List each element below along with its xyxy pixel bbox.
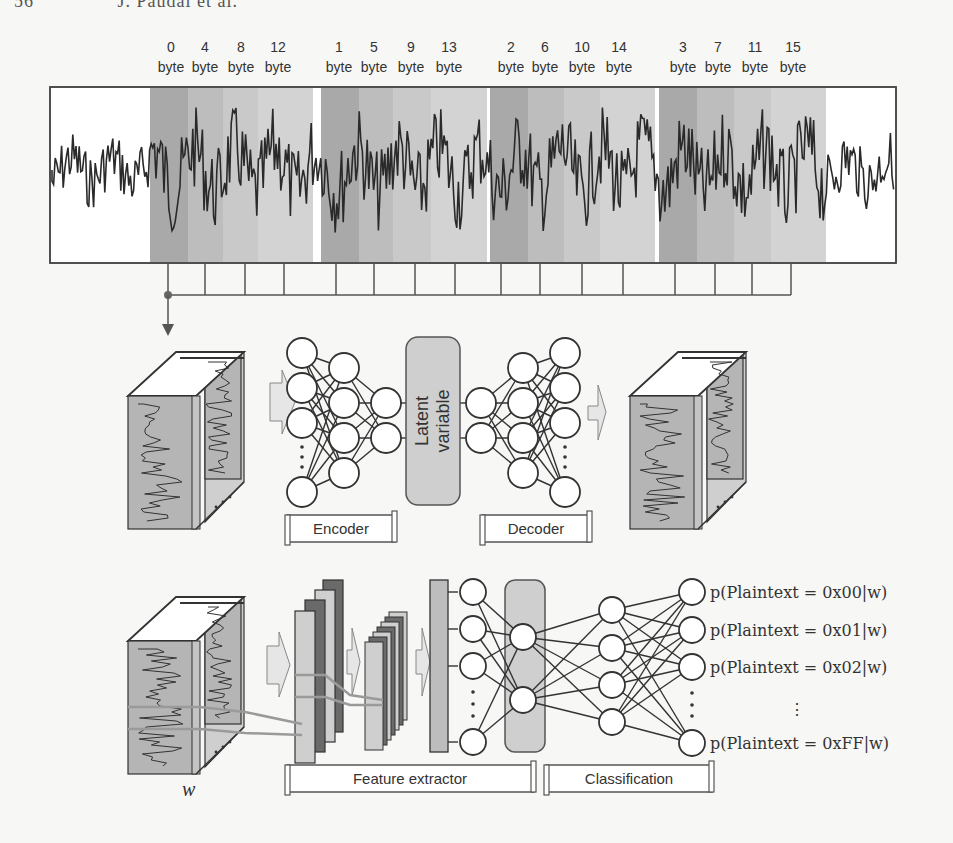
classification-label: Classification: [585, 770, 673, 787]
power-trace-panel: [50, 87, 896, 263]
byte-unit-label: byte: [670, 59, 697, 75]
neuron-node: [460, 616, 486, 642]
neuron-node: [679, 579, 705, 605]
variable-label: variable: [433, 389, 453, 452]
byte-index-label: 12: [270, 39, 286, 55]
byte-index-label: 3: [679, 39, 687, 55]
neuron-node: [508, 458, 538, 488]
byte-unit-label: byte: [398, 59, 425, 75]
neuron-node: [550, 408, 580, 438]
output-probability-label: p(Plaintext = 0x00|w): [710, 583, 887, 602]
neuron-node: [287, 477, 317, 507]
byte-labels: 0byte4byte8byte12byte1byte5byte9byte13by…: [158, 39, 807, 75]
classifier-network: [448, 579, 705, 756]
neuron-node: [460, 729, 486, 755]
neuron-node: [550, 373, 580, 403]
conv-layer-2: [365, 612, 407, 750]
neuron-node: [371, 423, 401, 453]
neuron-node: [508, 353, 538, 383]
neuron-node: [466, 423, 496, 453]
encoder-scroll: Encoder: [285, 511, 397, 545]
output-probability-label: p(Plaintext = 0xFF|w): [710, 734, 889, 753]
neuron-node: [599, 709, 625, 735]
byte-band: [359, 88, 393, 262]
byte-index-label: 8: [237, 39, 245, 55]
byte-unit-label: byte: [532, 59, 559, 75]
dense-layer-box: [505, 580, 545, 752]
neuron-node: [599, 672, 625, 698]
byte-index-label: 10: [574, 39, 590, 55]
byte-band: [393, 88, 431, 262]
arrow-right-icon: [267, 632, 290, 697]
byte-unit-label: byte: [780, 59, 807, 75]
encoder-label: Encoder: [313, 520, 369, 537]
neuron-node: [550, 338, 580, 368]
byte-index-label: 15: [785, 39, 801, 55]
flatten-layer: [430, 580, 448, 752]
neuron-node: [329, 423, 359, 453]
classifier-input-stack: [128, 597, 244, 774]
byte-index-label: 11: [748, 39, 763, 55]
neuron-node: [287, 373, 317, 403]
output-probability-label: p(Plaintext = 0x02|w): [710, 658, 887, 677]
output-trace-stack: [630, 352, 746, 529]
byte-unit-label: byte: [158, 59, 185, 75]
neuron-node: [466, 388, 496, 418]
arrow-right-icon: [347, 628, 360, 696]
latent-label: Latent: [412, 396, 432, 446]
neuron-node: [599, 597, 625, 623]
byte-index-label: 9: [407, 39, 415, 55]
byte-unit-label: byte: [606, 59, 633, 75]
byte-index-label: 2: [507, 39, 515, 55]
neuron-node: [510, 624, 536, 650]
feature-extractor-scroll: Feature extractor: [285, 761, 536, 795]
byte-unit-label: byte: [228, 59, 255, 75]
byte-index-label: 5: [370, 39, 378, 55]
byte-unit-label: byte: [569, 59, 596, 75]
byte-unit-label: byte: [498, 59, 525, 75]
byte-index-label: 6: [541, 39, 549, 55]
decoder-scroll: Decoder: [480, 511, 592, 545]
diagram-canvas: 0byte4byte8byte12byte1byte5byte9byte13by…: [0, 0, 953, 843]
byte-unit-label: byte: [742, 59, 769, 75]
byte-unit-label: byte: [192, 59, 219, 75]
input-trace-stack: [128, 352, 244, 529]
byte-unit-label: byte: [361, 59, 388, 75]
neuron-node: [287, 338, 317, 368]
neuron-node: [329, 388, 359, 418]
byte-band: [600, 88, 655, 262]
input-w-label: w: [182, 778, 196, 800]
decoder-label: Decoder: [508, 520, 565, 537]
neuron-node: [510, 687, 536, 713]
neuron-node: [329, 458, 359, 488]
byte-index-label: 0: [167, 39, 175, 55]
neuron-node: [508, 388, 538, 418]
neuron-node: [329, 353, 359, 383]
neuron-node: [460, 579, 486, 605]
byte-unit-label: byte: [705, 59, 732, 75]
output-ellipsis: ⋮: [789, 700, 805, 719]
feature-extractor-label: Feature extractor: [353, 770, 467, 787]
byte-unit-label: byte: [265, 59, 292, 75]
neuron-node: [371, 388, 401, 418]
neuron-node: [550, 477, 580, 507]
neuron-node: [508, 423, 538, 453]
byte-index-label: 13: [441, 39, 457, 55]
output-probability-label: p(Plaintext = 0x01|w): [710, 621, 887, 640]
byte-index-label: 7: [714, 39, 722, 55]
byte-index-label: 4: [201, 39, 209, 55]
arrow-right-icon: [416, 628, 430, 696]
neuron-node: [679, 654, 705, 680]
neuron-node: [679, 730, 705, 756]
byte-index-label: 14: [611, 39, 627, 55]
byte-unit-label: byte: [436, 59, 463, 75]
neuron-node: [287, 408, 317, 438]
neuron-node: [599, 635, 625, 661]
byte-index-label: 1: [335, 39, 343, 55]
byte-unit-label: byte: [326, 59, 353, 75]
arrow-right-icon: [588, 385, 606, 440]
conv-layer-1: [295, 580, 343, 763]
neuron-node: [460, 653, 486, 679]
window-brackets: [168, 263, 791, 295]
classification-scroll: Classification: [544, 761, 714, 795]
